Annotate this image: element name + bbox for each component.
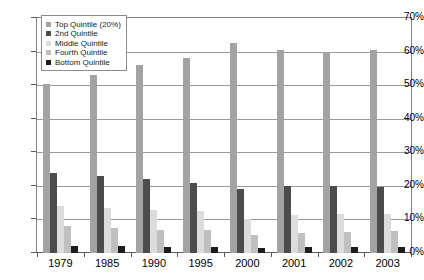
y-axis-tick-mark (31, 51, 36, 52)
bar (150, 210, 157, 253)
y-axis-tick-mark (31, 151, 36, 152)
bar (71, 246, 78, 253)
x-axis-tick-label: 1985 (84, 256, 131, 276)
x-axis-labels: 19791985199019952000200120022003 (37, 256, 411, 276)
bar (298, 233, 305, 253)
chart-legend: Top Quintile (20%)2nd QuintileMiddle Qui… (41, 15, 127, 71)
bar (391, 231, 398, 253)
bar (211, 247, 218, 253)
legend-swatch-icon (46, 60, 51, 65)
x-axis-tick-label: 2003 (364, 256, 411, 276)
legend-item: Fourth Quintile (46, 48, 121, 57)
bar (305, 247, 312, 253)
x-axis-tick-mark (271, 253, 272, 257)
legend-item-label: Top Quintile (20%) (55, 20, 121, 29)
x-axis-tick-mark (177, 253, 178, 257)
legend-item: Middle Quintile (46, 39, 121, 48)
bar (230, 43, 237, 253)
bar (337, 214, 344, 253)
x-axis-tick-mark (224, 253, 225, 257)
y-axis-tick-mark (31, 252, 36, 253)
bar (291, 215, 298, 253)
bar (164, 247, 171, 253)
bar (277, 50, 284, 253)
bar (157, 230, 164, 254)
bar-group (364, 18, 411, 253)
bar-group (224, 18, 271, 253)
legend-item-label: Middle Quintile (55, 39, 108, 48)
x-axis-tick-label: 1979 (37, 256, 84, 276)
bar (284, 186, 291, 253)
bar (197, 211, 204, 253)
bar (43, 84, 50, 253)
bar (97, 176, 104, 253)
bar-chart: 0%10%20%30%40%50%60%70% 1979198519901995… (0, 0, 424, 280)
legend-item-label: Fourth Quintile (55, 48, 107, 57)
bar (398, 247, 405, 253)
legend-swatch-icon (46, 41, 51, 46)
legend-item: Bottom Quintile (46, 58, 121, 67)
legend-item-label: Bottom Quintile (55, 58, 110, 67)
y-axis-tick-mark (31, 17, 36, 18)
legend-item: Top Quintile (20%) (46, 20, 121, 29)
legend-swatch-icon (46, 50, 51, 55)
bar (50, 173, 57, 253)
bar (344, 232, 351, 253)
x-axis-tick-mark (411, 253, 412, 257)
bar (244, 219, 251, 253)
x-axis-tick-label: 2001 (271, 256, 318, 276)
x-axis-tick-mark (364, 253, 365, 257)
legend-item: 2nd Quintile (46, 29, 121, 38)
bar (258, 248, 265, 253)
y-axis-tick-mark (31, 84, 36, 85)
bar (118, 246, 125, 253)
bar (136, 65, 143, 253)
x-axis-tick-label: 2000 (224, 256, 271, 276)
bar-group (177, 18, 224, 253)
y-axis-tick-mark (31, 118, 36, 119)
bar-group (318, 18, 365, 253)
bar (90, 75, 97, 253)
bar (111, 228, 118, 253)
y-axis-tick-mark (31, 218, 36, 219)
bar (57, 206, 64, 253)
bar (143, 179, 150, 253)
x-axis-tick-mark (131, 253, 132, 257)
legend-swatch-icon (46, 31, 51, 36)
bar (183, 58, 190, 253)
x-axis-tick-label: 1990 (131, 256, 178, 276)
legend-item-label: 2nd Quintile (55, 29, 98, 38)
bar-group (131, 18, 178, 253)
y-axis-tick-mark (31, 185, 36, 186)
bar (104, 208, 111, 253)
x-axis-tick-label: 1995 (177, 256, 224, 276)
bar (377, 187, 384, 253)
bar (190, 183, 197, 254)
bar (384, 214, 391, 253)
legend-swatch-icon (46, 22, 51, 27)
x-axis-tick-label: 2002 (318, 256, 365, 276)
x-axis-tick-mark (37, 253, 38, 257)
bar (351, 247, 358, 253)
bar (370, 50, 377, 253)
bar (64, 226, 71, 253)
bar (204, 230, 211, 253)
bar (330, 186, 337, 253)
x-axis-tick-mark (318, 253, 319, 257)
x-axis-tick-mark (84, 253, 85, 257)
bar (251, 235, 258, 253)
bar (237, 189, 244, 253)
bar (323, 52, 330, 253)
bar-group (271, 18, 318, 253)
